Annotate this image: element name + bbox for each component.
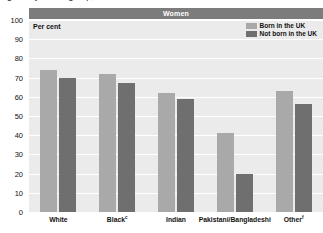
- y-tick-label-0: 0: [19, 208, 23, 217]
- x-label-footnote-marker: f: [302, 215, 304, 220]
- bar-indian-not-born-in-the-uk: [177, 99, 194, 212]
- chart-title-banner: Women: [29, 8, 323, 19]
- x-label-footnote-marker: c: [125, 215, 128, 220]
- chart-title-text: Women: [163, 10, 189, 17]
- x-category-label-white: White: [49, 216, 68, 223]
- bar-indian-born-in-the-uk: [158, 93, 175, 212]
- y-axis: 0102030405060708090100: [0, 20, 27, 212]
- x-label-text: Pakistani/Bangladeshi: [199, 216, 271, 223]
- y-tick-label-30: 30: [15, 150, 23, 159]
- x-label-text: White: [49, 216, 68, 223]
- bar-other-not-born-in-the-uk: [295, 104, 312, 212]
- legend-item-0[interactable]: Born in the UK: [246, 22, 317, 29]
- bar-pakistani-bangladeshi-not-born-in-the-uk: [236, 174, 253, 212]
- x-label-text: Indian: [166, 216, 186, 223]
- legend-label: Born in the UK: [260, 22, 306, 29]
- chart-legend: Born in the UKNot born in the UK: [246, 22, 317, 37]
- y-tick-label-50: 50: [15, 112, 23, 121]
- bar-pakistani-bangladeshi-born-in-the-uk: [217, 133, 234, 212]
- x-category-label-indian: Indian: [166, 216, 186, 223]
- y-tick-label-90: 90: [15, 35, 23, 44]
- bar-black-born-in-the-uk: [99, 74, 116, 212]
- x-category-label-pakistani-bangladeshi: Pakistani/Bangladeshi: [199, 216, 271, 223]
- bars-layer: [29, 20, 323, 212]
- bar-other-born-in-the-uk: [276, 91, 293, 212]
- y-axis-unit-label: Per cent: [33, 23, 61, 30]
- x-label-text: Black: [107, 216, 125, 223]
- plot-area: [29, 20, 323, 212]
- legend-label: Not born in the UK: [260, 30, 317, 37]
- x-label-text: Other: [284, 216, 302, 223]
- x-category-label-other: Otherf: [284, 216, 304, 223]
- x-axis: WhiteBlackcIndianPakistani/BangladeshiOt…: [29, 213, 323, 229]
- legend-item-1[interactable]: Not born in the UK: [246, 30, 317, 37]
- y-tick-label-40: 40: [15, 131, 23, 140]
- y-tick-label-20: 20: [15, 169, 23, 178]
- y-tick-label-60: 60: [15, 92, 23, 101]
- y-tick-label-80: 80: [15, 54, 23, 63]
- chart-figure: Women 0102030405060708090100 Per cent Bo…: [0, 0, 323, 233]
- y-tick-label-10: 10: [15, 188, 23, 197]
- legend-swatch-icon: [246, 31, 257, 37]
- bar-black-not-born-in-the-uk: [118, 83, 135, 212]
- y-tick-label-100: 100: [10, 16, 23, 25]
- bar-white-not-born-in-the-uk: [59, 78, 76, 212]
- x-category-label-black: Blackc: [107, 216, 128, 223]
- bar-white-born-in-the-uk: [40, 70, 57, 212]
- y-tick-label-70: 70: [15, 73, 23, 82]
- legend-swatch-icon: [246, 23, 257, 29]
